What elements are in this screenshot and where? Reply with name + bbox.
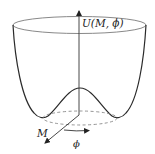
vacuum-circle-dashed [43,111,117,125]
angular-axis-label: ϕ [73,138,80,149]
mexican-hat-diagram: U(M, ϕ) M ϕ [0,0,155,154]
potential-curve [13,25,146,118]
angular-arrow-phi [64,130,89,131]
potential-axis-label: U(M, ϕ) [82,17,124,29]
top-rim-ellipse [13,17,146,34]
radial-axis-label: M [36,127,48,139]
